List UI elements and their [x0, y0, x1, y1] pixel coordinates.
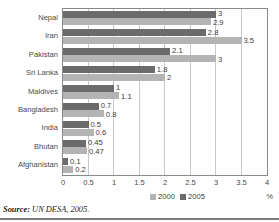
- bar-2005-bhutan: [63, 140, 86, 147]
- legend-label-2000: 2000: [158, 192, 175, 202]
- legend-swatch-2005-icon: [180, 194, 186, 200]
- x-tick-0: 0: [61, 178, 65, 188]
- x-axis-tick-labels: 00.511.522.533.54: [0, 178, 279, 190]
- bar-chart: NepalIranPakistanSri LankaMaldivesBangla…: [0, 2, 279, 192]
- y-axis-label-india: India: [0, 123, 58, 132]
- legend-item-2005: 2005: [180, 192, 205, 202]
- x-tick-4: 4: [265, 178, 269, 188]
- x-tick-3-5: 3.5: [236, 178, 247, 188]
- legend-swatch-2000-icon: [150, 194, 156, 200]
- x-tick-2-5: 2.5: [185, 178, 196, 188]
- bottom-divider: [0, 218, 279, 220]
- bar-2005-india: [63, 121, 89, 128]
- x-tick-1-5: 1.5: [134, 178, 145, 188]
- bar-2000-sri-lanka: [63, 74, 165, 81]
- y-axis-label-maldives: Maldives: [0, 87, 58, 96]
- x-tick-3: 3: [214, 178, 218, 188]
- bar-2005-maldives: [63, 85, 114, 92]
- bar-value-2005-iran: 2.8: [208, 29, 219, 37]
- y-axis-label-nepal: Nepal: [0, 13, 58, 22]
- bar-value-2000-iran: 3.5: [244, 37, 255, 45]
- bar-2000-iran: [63, 37, 242, 44]
- bar-2000-nepal: [63, 18, 211, 25]
- bar-value-2000-bangladesh: 0.8: [106, 111, 117, 119]
- bar-value-2000-bhutan: 0.47: [89, 148, 104, 156]
- bar-value-2005-pakistan: 2.1: [172, 47, 183, 55]
- y-axis-label-pakistan: Pakistan: [0, 50, 58, 59]
- x-axis-unit-label: %: [266, 192, 273, 202]
- bar-2000-bhutan: [63, 147, 87, 154]
- legend-item-2000: 2000: [150, 192, 175, 202]
- bar-2000-pakistan: [63, 55, 216, 62]
- y-axis-label-bhutan: Bhutan: [0, 142, 58, 151]
- bar-2005-nepal: [63, 11, 216, 18]
- source-value: UN DESA, 2005.: [32, 205, 89, 214]
- bar-2000-bangladesh: [63, 110, 104, 117]
- source-note: Source: UN DESA, 2005.: [3, 205, 89, 215]
- bar-value-2005-sri-lanka: 1.8: [157, 66, 168, 74]
- y-axis-label-sri-lanka: Sri Lanka: [0, 68, 58, 77]
- x-tick-1: 1: [112, 178, 116, 188]
- bar-series-container: 32.92.83.52.131.8211.10.70.80.50.60.450.…: [63, 9, 267, 175]
- bar-value-2000-maldives: 1.1: [121, 93, 132, 101]
- y-axis-label-iran: Iran: [0, 31, 58, 40]
- legend-label-2005: 2005: [188, 192, 205, 202]
- bar-value-2000-sri-lanka: 2: [167, 74, 171, 82]
- bar-value-2000-pakistan: 3: [218, 56, 222, 64]
- bar-2000-india: [63, 129, 94, 136]
- source-label: Source:: [3, 205, 30, 214]
- bar-2000-maldives: [63, 92, 119, 99]
- bar-2005-afghanistan: [63, 158, 68, 165]
- bar-2005-iran: [63, 29, 206, 36]
- x-tick-2: 2: [163, 178, 167, 188]
- bar-value-2005-maldives: 1: [116, 84, 120, 92]
- bar-2005-pakistan: [63, 48, 170, 55]
- chart-figure: NepalIranPakistanSri LankaMaldivesBangla…: [0, 0, 279, 222]
- bar-value-2000-afghanistan: 0.2: [75, 166, 86, 174]
- y-axis-label-afghanistan: Afghanistan: [0, 160, 58, 169]
- y-axis-category-labels: NepalIranPakistanSri LankaMaldivesBangla…: [0, 8, 58, 176]
- bar-value-2000-nepal: 2.9: [213, 19, 224, 27]
- x-tick-0-5: 0.5: [83, 178, 94, 188]
- bar-2005-bangladesh: [63, 103, 99, 110]
- bar-2005-sri-lanka: [63, 66, 155, 73]
- y-axis-label-bangladesh: Bangladesh: [0, 105, 58, 114]
- chart-legend: 2000 2005 %: [0, 192, 279, 204]
- bar-2000-afghanistan: [63, 166, 73, 173]
- bar-value-2000-india: 0.6: [96, 129, 107, 137]
